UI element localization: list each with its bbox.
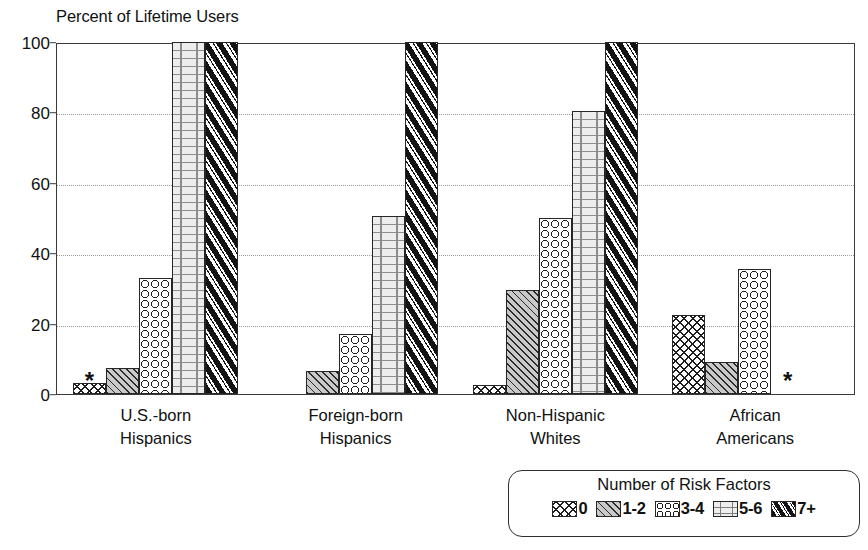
y-axis-tick-label: 80: [2, 105, 50, 122]
legend-label: 3-4: [681, 499, 704, 518]
plot-area: **: [56, 43, 855, 395]
bar: [672, 315, 705, 394]
suppressed-value-marker: *: [73, 369, 106, 393]
legend-label: 1-2: [622, 499, 645, 518]
x-axis-group-label: AfricanAmericans: [655, 404, 855, 450]
bar: [172, 42, 205, 394]
bar: [372, 216, 405, 394]
bar: [539, 218, 572, 394]
x-axis-group-label-line: Americans: [655, 427, 855, 450]
x-axis-group-label-line: Hispanics: [256, 427, 456, 450]
legend-swatch: [596, 501, 621, 517]
legend-item[interactable]: 1-2: [596, 499, 645, 518]
legend-swatch: [771, 501, 796, 517]
bar: [405, 42, 438, 394]
legend-item[interactable]: 7+: [771, 499, 815, 518]
chart-canvas: Percent of Lifetime Users 020406080100 *…: [0, 0, 868, 550]
legend-item[interactable]: 0: [552, 499, 587, 518]
bar: [572, 111, 605, 394]
bar: [506, 290, 539, 394]
y-axis-tick-label: 100: [2, 35, 50, 52]
bar: [473, 385, 506, 394]
legend-items: 01-23-45-67+: [509, 499, 859, 518]
y-axis-tick-label: 0: [2, 387, 50, 404]
legend-item[interactable]: 3-4: [655, 499, 704, 518]
bar: [339, 334, 372, 394]
legend-label: 0: [578, 499, 587, 518]
legend-swatch: [713, 501, 738, 517]
x-axis-group-label: Foreign-bornHispanics: [256, 404, 456, 450]
legend-title: Number of Risk Factors: [509, 475, 859, 494]
bar: [605, 42, 638, 394]
suppressed-value-marker: *: [771, 369, 804, 393]
y-axis: 020406080100: [0, 43, 50, 395]
y-axis-tick-label: 40: [2, 246, 50, 263]
bar: [205, 42, 238, 394]
bar: [738, 269, 771, 394]
chart-legend: Number of Risk Factors 01-23-45-67+: [508, 470, 860, 537]
x-axis-group-label-line: African: [655, 404, 855, 427]
x-axis-group-label: Non-HispanicWhites: [456, 404, 656, 450]
legend-label: 5-6: [739, 499, 762, 518]
legend-swatch: [552, 501, 577, 517]
y-axis-tick-label: 60: [2, 175, 50, 192]
bar: [139, 278, 172, 394]
x-axis-group-label-line: U.S.-born: [56, 404, 256, 427]
bar: [306, 371, 339, 394]
chart-title: Percent of Lifetime Users: [56, 7, 239, 26]
x-axis-group-label-line: Whites: [456, 427, 656, 450]
x-axis-group-label-line: Foreign-born: [256, 404, 456, 427]
x-axis-group-label: U.S.-bornHispanics: [56, 404, 256, 450]
x-axis-group-label-line: Hispanics: [56, 427, 256, 450]
legend-item[interactable]: 5-6: [713, 499, 762, 518]
y-axis-tick-label: 20: [2, 316, 50, 333]
bar: [106, 368, 139, 394]
bar: [705, 362, 738, 394]
legend-label: 7+: [797, 499, 815, 518]
legend-swatch: [655, 501, 680, 517]
x-axis-group-label-line: Non-Hispanic: [456, 404, 656, 427]
